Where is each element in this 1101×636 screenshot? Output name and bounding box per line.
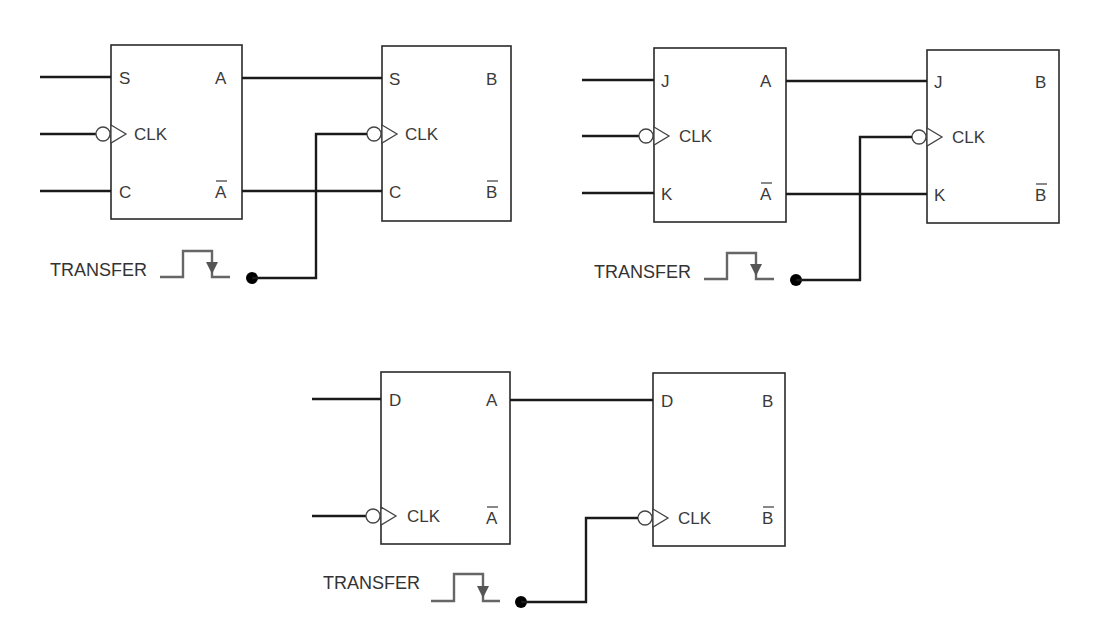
transfer-clock-wire xyxy=(252,134,367,278)
transfer-clock-wire xyxy=(796,137,912,280)
falling-edge-arrow-icon xyxy=(750,264,762,276)
flip-flop-b-sc: S CLK C B B xyxy=(242,46,511,221)
circuit-jk: J CLK K A A J CLK K B B TRANSFER xyxy=(582,48,1059,286)
output-label-b: B xyxy=(1035,73,1046,92)
output-label-a: A xyxy=(215,69,227,88)
flip-flop-a-jk: J CLK K A A xyxy=(582,48,786,222)
pin-label-j: J xyxy=(661,72,670,91)
pin-label-c: C xyxy=(119,183,131,202)
circuit-sc: S CLK C A A S CLK C B B TRANSFER xyxy=(40,45,511,284)
falling-edge-arrow-icon xyxy=(477,586,489,598)
transfer-label: TRANSFER xyxy=(50,260,147,280)
output-label-a-bar: A xyxy=(486,509,498,528)
pin-label-c: C xyxy=(389,183,401,202)
pulse-waveform-icon xyxy=(160,251,230,277)
transfer-clock-wire xyxy=(521,518,638,602)
pin-label-clk: CLK xyxy=(679,127,713,146)
output-label-b: B xyxy=(486,70,497,89)
inversion-bubble-icon xyxy=(639,129,653,143)
transfer-label: TRANSFER xyxy=(594,262,691,282)
pin-label-s: S xyxy=(389,70,400,89)
pulse-waveform-icon xyxy=(431,574,500,601)
pin-label-d: D xyxy=(661,392,673,411)
pin-label-k: K xyxy=(934,186,946,205)
flip-flop-a-sc: S CLK C A A xyxy=(40,45,242,219)
flip-flop-transfer-diagram: S CLK C A A S CLK C B B TRANSFER xyxy=(0,0,1101,636)
output-label-b-bar: B xyxy=(486,183,497,202)
pin-label-k: K xyxy=(661,185,673,204)
flip-flop-b-jk: J CLK K B B xyxy=(786,50,1059,223)
pulse-waveform-icon xyxy=(704,253,774,279)
flip-flop-a-d: D CLK A A xyxy=(312,372,510,544)
inversion-bubble-icon xyxy=(367,127,381,141)
output-label-a: A xyxy=(760,72,772,91)
falling-edge-arrow-icon xyxy=(206,262,218,274)
pin-label-clk: CLK xyxy=(952,128,986,147)
output-label-a: A xyxy=(486,391,498,410)
pin-label-s: S xyxy=(119,69,130,88)
transfer-label: TRANSFER xyxy=(323,573,420,593)
flip-flop-b-d: D CLK B B xyxy=(510,373,785,546)
output-label-a-bar: A xyxy=(215,183,227,202)
inversion-bubble-icon xyxy=(912,130,926,144)
pin-label-d: D xyxy=(389,391,401,410)
pin-label-clk: CLK xyxy=(678,509,712,528)
inversion-bubble-icon xyxy=(366,509,380,523)
output-label-a-bar: A xyxy=(760,185,772,204)
circuit-d: D CLK A A D CLK B B TRANSFER xyxy=(312,372,785,608)
output-label-b-bar: B xyxy=(1035,186,1046,205)
pin-label-clk: CLK xyxy=(405,125,439,144)
output-label-b-bar: B xyxy=(762,509,773,528)
pin-label-clk: CLK xyxy=(134,125,168,144)
pin-label-j: J xyxy=(934,73,943,92)
pin-label-clk: CLK xyxy=(407,507,441,526)
inversion-bubble-icon xyxy=(638,511,652,525)
output-label-b: B xyxy=(762,392,773,411)
inversion-bubble-icon xyxy=(96,127,110,141)
